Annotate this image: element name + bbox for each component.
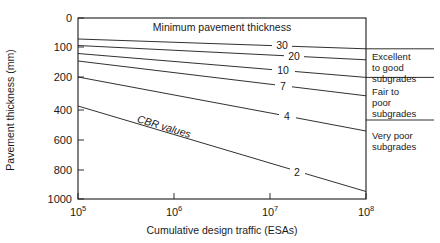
- x-tick-label-1e6: 10 6: [166, 204, 182, 218]
- y-tick-label-100: 100: [54, 41, 72, 53]
- x-tick-base-1e6: 10: [166, 206, 178, 218]
- x-tick-exp-1e6: 6: [178, 204, 182, 213]
- chart-svg: Pavement thickness (mm) 0 100 200 400 60…: [0, 0, 440, 243]
- y-tick-label-800: 800: [54, 164, 72, 176]
- x-tick-base-1e5: 10: [70, 206, 82, 218]
- y-tick-label-0: 0: [66, 12, 72, 24]
- plot-title: Minimum pavement thickness: [153, 21, 291, 33]
- y-tick-label-600: 600: [54, 134, 72, 146]
- region-excellent-line3: subgrades: [372, 73, 417, 84]
- curve-cbr-2: [78, 106, 366, 192]
- curve-cbr-10: [78, 54, 366, 78]
- curve-label-10: 10: [277, 64, 289, 76]
- curve-label-30: 30: [276, 39, 288, 51]
- region-verypoor-line1: Very poor: [372, 130, 413, 141]
- region-fair-line2: poor: [372, 97, 391, 108]
- plot-frame: [78, 18, 366, 199]
- y-tick-label-400: 400: [54, 104, 72, 116]
- x-tick-label-1e8: 10 8: [358, 204, 374, 218]
- region-fair-line1: Fair to: [372, 86, 399, 97]
- x-tick-exp-1e7: 7: [274, 204, 278, 213]
- region-excellent-line1: Excellent: [372, 51, 411, 62]
- curve-label-4: 4: [284, 110, 290, 122]
- region-label-fair: Fair to poor subgrades: [372, 86, 417, 119]
- x-tick-label-1e7: 10 7: [262, 204, 278, 218]
- curve-label-20: 20: [288, 50, 300, 62]
- curve-label-7: 7: [280, 80, 286, 92]
- x-axis-title: Cumulative design traffic (ESAs): [147, 224, 298, 236]
- curve-label-2: 2: [294, 166, 300, 178]
- region-verypoor-line2: subgrades: [372, 141, 417, 152]
- curve-cbr-4: [78, 77, 366, 131]
- cbr-values-note: CBR values: [136, 113, 193, 140]
- y-tick-label-1000: 1000: [48, 193, 72, 205]
- y-axis-title: Pavement thickness (mm): [4, 49, 16, 170]
- x-tick-exp-1e5: 5: [82, 204, 86, 213]
- x-tick-label-1e5: 10 5: [70, 204, 86, 218]
- x-tick-base-1e7: 10: [262, 206, 274, 218]
- region-label-excellent: Excellent to good subgrades: [372, 51, 417, 84]
- region-excellent-line2: to good: [372, 62, 404, 73]
- x-tick-exp-1e8: 8: [370, 204, 374, 213]
- region-label-very-poor: Very poor subgrades: [372, 130, 417, 152]
- curve-cbr-7: [78, 61, 366, 96]
- x-tick-base-1e8: 10: [358, 206, 370, 218]
- x-tick-marks: [78, 193, 366, 199]
- pavement-thickness-chart: Pavement thickness (mm) 0 100 200 400 60…: [0, 0, 440, 243]
- y-tick-label-200: 200: [54, 71, 72, 83]
- region-fair-line3: subgrades: [372, 108, 417, 119]
